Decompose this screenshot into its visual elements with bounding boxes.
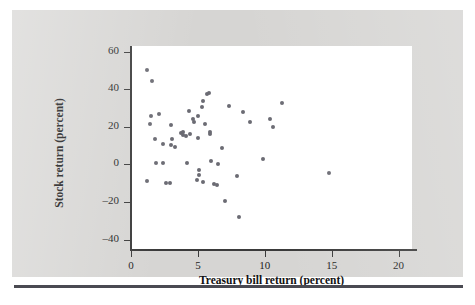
data-point bbox=[157, 112, 161, 116]
y-tick bbox=[124, 127, 130, 128]
x-tick-label: 10 bbox=[259, 259, 270, 271]
x-tick bbox=[399, 251, 400, 257]
data-point bbox=[196, 136, 200, 140]
data-point bbox=[203, 122, 207, 126]
data-point bbox=[200, 105, 204, 109]
data-point bbox=[207, 91, 211, 95]
x-tick bbox=[198, 251, 199, 257]
y-tick bbox=[124, 202, 130, 203]
x-tick bbox=[265, 251, 266, 257]
y-tick-label-text: 40 bbox=[108, 81, 119, 93]
data-point bbox=[209, 159, 213, 163]
x-tick-label: 20 bbox=[393, 259, 404, 271]
data-point bbox=[187, 109, 191, 113]
y-tick bbox=[124, 164, 130, 165]
data-point bbox=[148, 122, 152, 126]
data-point bbox=[227, 104, 231, 108]
data-point bbox=[215, 183, 219, 187]
x-tick bbox=[131, 251, 132, 257]
data-point bbox=[192, 120, 196, 124]
data-point bbox=[223, 199, 227, 203]
data-point bbox=[271, 125, 275, 129]
data-point bbox=[173, 145, 177, 149]
y-tick-label-text: 60 bbox=[108, 44, 119, 56]
x-tick bbox=[332, 251, 333, 257]
x-axis-line bbox=[130, 249, 417, 251]
bottom-rule bbox=[14, 285, 463, 288]
x-tick-label: 15 bbox=[326, 259, 337, 271]
x-tick-label: 5 bbox=[195, 259, 201, 271]
data-point bbox=[327, 171, 331, 175]
data-point bbox=[197, 173, 201, 177]
data-point bbox=[235, 174, 239, 178]
figure-panel: 6040200–20–40 05101520 Stock return (per… bbox=[12, 10, 463, 277]
y-tick bbox=[124, 240, 130, 241]
x-tick-label: 0 bbox=[128, 259, 134, 271]
y-tick-label-text: 0 bbox=[114, 156, 120, 168]
y-axis-title: Stock return (percent) bbox=[53, 63, 65, 243]
y-axis-line bbox=[130, 46, 132, 250]
y-tick-label-text: 20 bbox=[108, 119, 119, 131]
data-point bbox=[168, 181, 172, 185]
data-point bbox=[161, 142, 165, 146]
y-tick-label-text: –40 bbox=[103, 232, 120, 244]
y-tick bbox=[124, 89, 130, 90]
y-tick-label-text: –20 bbox=[103, 194, 120, 206]
scatter-plot-figure: 6040200–20–40 05101520 Stock return (per… bbox=[0, 0, 475, 305]
y-tick bbox=[124, 52, 130, 53]
data-point bbox=[161, 161, 165, 165]
